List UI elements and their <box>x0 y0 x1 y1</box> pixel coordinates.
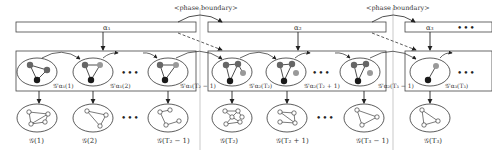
latent-label: 𝒢'α₂(T₂) <box>249 82 272 89</box>
phase-boundary-label-1: <phase boundary> <box>174 4 238 12</box>
latent-arc <box>335 53 350 58</box>
dashed-transition-2 <box>372 33 416 50</box>
latent-arc <box>176 51 222 59</box>
observed-graph-1 <box>17 104 57 132</box>
observed-graph-2 <box>73 104 113 132</box>
ellipsis-phase: ••• <box>457 23 476 33</box>
latent-label: 𝒢'α₂(T₃ − 1) <box>378 82 414 89</box>
latent-label: 𝒢'α₁(2) <box>110 82 131 89</box>
latent-arc <box>295 53 310 58</box>
ellipsis-latent-2: ••• <box>312 68 331 78</box>
ellipsis-latent-3: ••• <box>457 68 476 78</box>
ellipsis-observed-1: ••• <box>121 113 140 123</box>
latent-label: 𝒢'α₁(1) <box>53 82 74 89</box>
latent-graph-2 <box>73 58 113 86</box>
svg-text:α₁: α₁ <box>103 24 111 32</box>
observed-graph-3 <box>148 104 188 132</box>
observed-label: 𝒢(T₃) <box>424 137 442 145</box>
latent-graph-1 <box>17 58 57 86</box>
observed-label: 𝒢(1) <box>29 137 44 145</box>
ellipsis-observed-2: ••• <box>316 113 335 123</box>
phase-transition-diagram: α₁ α₂ α₃ ••• <phase boundary> <phase bou… <box>0 0 492 157</box>
phase-boundary-arc-2 <box>372 15 415 22</box>
phase-boundary-label-2: <phase boundary> <box>366 4 430 12</box>
observed-graph-7 <box>410 104 450 132</box>
observed-label: 𝒢(T₂ + 1) <box>276 137 309 145</box>
observed-label: 𝒢(T₂ − 1) <box>157 137 190 145</box>
latent-arc <box>440 53 452 58</box>
latent-graph-6 <box>340 58 380 86</box>
latent-label: 𝒢'α₁(T₂ − 1) <box>180 82 216 89</box>
latent-graph-7 <box>410 58 450 86</box>
svg-text:α₂: α₂ <box>294 24 302 32</box>
observed-label: 𝒢(2) <box>82 137 97 145</box>
observed-graph-6 <box>344 104 384 132</box>
observed-label: 𝒢(T₃ − 1) <box>356 137 389 145</box>
latent-arc <box>42 52 80 59</box>
observed-graph-5 <box>267 104 307 132</box>
latent-label: 𝒢'α₃(T₃) <box>445 82 468 89</box>
observed-label: 𝒢(T₂) <box>220 137 238 145</box>
phase-bar-alpha3: α₃ <box>405 22 492 32</box>
phase-bar-alpha1: α₁ <box>16 22 196 32</box>
latent-label: 𝒢'α₂(T₂ + 1) <box>304 82 340 89</box>
observed-graph-4 <box>212 104 252 132</box>
ellipsis-latent-1: ••• <box>121 68 140 78</box>
svg-text:α₃: α₃ <box>426 24 434 32</box>
latent-arc <box>103 53 118 58</box>
latent-graph-4 <box>212 58 252 86</box>
latent-arc <box>240 52 276 59</box>
phase-bar-alpha2: α₂ <box>208 22 386 32</box>
latent-arc <box>143 53 157 58</box>
